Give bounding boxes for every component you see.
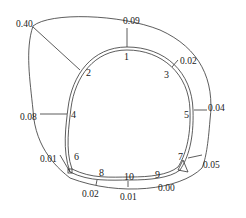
connector-6 — [60, 155, 70, 172]
value-label-8: 0.02 — [82, 190, 99, 200]
value-label-2: 0.40 — [16, 20, 33, 30]
node-label-9: 9 — [155, 170, 160, 180]
value-label-3: 0.02 — [180, 57, 197, 67]
node-label-6: 6 — [74, 152, 79, 162]
node-label-10: 10 — [124, 172, 134, 182]
node-label-1: 1 — [124, 52, 129, 62]
value-label-7: 0.05 — [203, 161, 220, 171]
node-label-2: 2 — [86, 68, 91, 78]
value-label-1: 0.09 — [123, 17, 140, 27]
connector-8 — [96, 180, 97, 185]
value-label-10: 0.01 — [120, 193, 137, 203]
node-label-3: 3 — [164, 70, 169, 80]
inner-loop-outer — [65, 47, 193, 180]
value-label-5: 0.04 — [208, 104, 225, 114]
node-label-8: 8 — [99, 168, 104, 178]
node-label-7: 7 — [178, 152, 183, 162]
node-label-4: 4 — [71, 110, 76, 120]
value-label-9: 0.00 — [158, 184, 175, 194]
connector-2 — [33, 27, 80, 70]
node-label-5: 5 — [184, 110, 189, 120]
value-label-6: 0.01 — [40, 155, 57, 165]
connector-7 — [188, 155, 202, 158]
route-diagram: 0.40 0.09 0.02 0.08 0.04 0.01 0.05 0.02 … — [0, 0, 246, 218]
value-label-4: 0.08 — [20, 113, 37, 123]
